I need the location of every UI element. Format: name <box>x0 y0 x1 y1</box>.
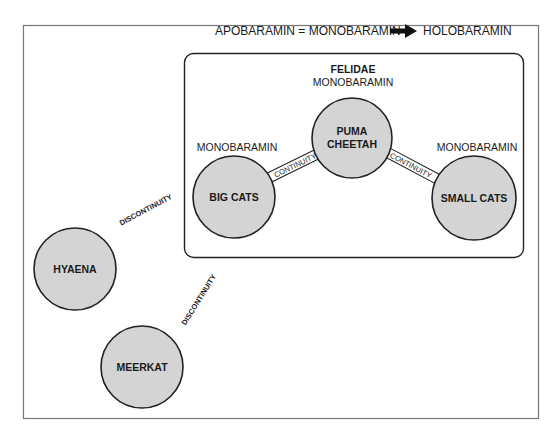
smallcats-monobaramin-tag: MONOBARAMIN <box>437 141 518 153</box>
meerkat-label: MEERKAT <box>116 361 168 373</box>
felidae-title: FELIDAE <box>331 63 376 75</box>
cheetah-label: CHEETAH <box>327 138 377 150</box>
discontinuity-label-lower: DISCONTINUITY <box>180 273 219 327</box>
continuity-label-right: CONTINUITY <box>388 151 433 180</box>
big-cats-label: BIG CATS <box>209 191 258 203</box>
puma-label: PUMA <box>337 125 368 137</box>
baramin-diagram: APOBARAMIN = MONOBARAMIN HOLOBARAMIN FEL… <box>0 0 560 437</box>
bigcats-monobaramin-tag: MONOBARAMIN <box>197 141 278 153</box>
small-cats-label: SMALL CATS <box>441 192 508 204</box>
header-left-text: APOBARAMIN = MONOBARAMIN <box>215 24 401 38</box>
continuity-label-left: CONTINUITY <box>273 151 318 179</box>
discontinuity-label-upper: DISCONTINUITY <box>118 192 174 227</box>
puma-monobaramin-tag: MONOBARAMIN <box>313 76 394 88</box>
header-right-text: HOLOBARAMIN <box>423 24 512 38</box>
hyaena-label: HYAENA <box>53 263 97 275</box>
